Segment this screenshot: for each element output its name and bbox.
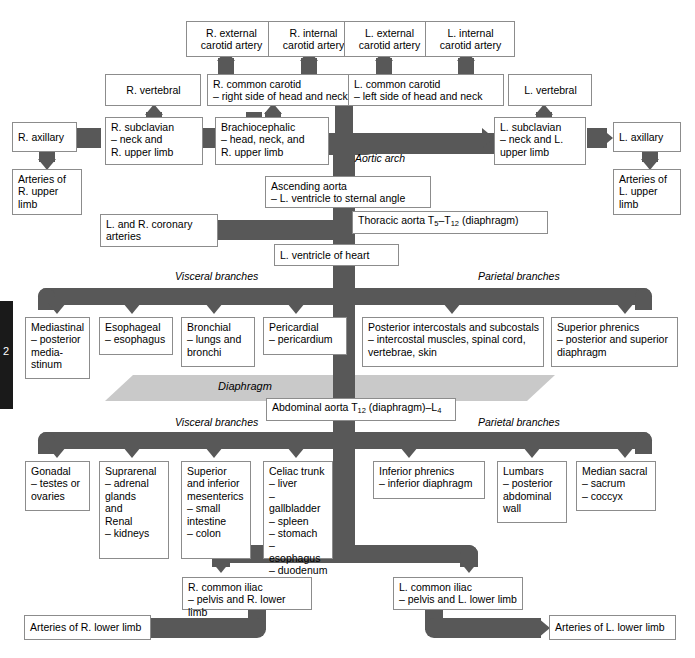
arrow-down-pericardial [287, 303, 305, 314]
vessel-rsub-to-raxillary [75, 128, 101, 148]
arrow-down-superior-phrenics [616, 303, 634, 314]
node-median-sacral[interactable]: Median sacral – sacrum – coccyx [576, 461, 656, 511]
node-l-ventricle-of-heart[interactable]: L. ventricle of heart [274, 244, 399, 266]
arrow-down-inferior-phrenics [400, 447, 418, 458]
arrow-right-to-l-subclavian [482, 128, 494, 148]
node-r-vertebral[interactable]: R. vertebral [105, 74, 201, 106]
diaphragm-label: Diaphragm [218, 380, 272, 392]
vessel-lci-right [425, 618, 541, 638]
node-arteries-l-upper-limb[interactable]: Arteries of L. upper limb [613, 169, 681, 215]
arrow-down-median-sacral [616, 447, 634, 458]
node-bronchial[interactable]: Bronchial – lungs and bronchi [181, 317, 255, 367]
label-thoracic-parietal-branches: Parietal branches [478, 270, 560, 282]
diagram-canvas: Diaphragm 2 [0, 0, 695, 658]
vessel-to-coronary [216, 220, 346, 240]
node-gonadal[interactable]: Gonadal – testes or ovaries [25, 461, 90, 511]
arrow-down-gonadal [48, 447, 66, 458]
node-suprarenal-renal[interactable]: Suprarenal – adrenal glands and Renal – … [99, 461, 169, 559]
arrow-down-bronchial [205, 303, 223, 314]
arrow-down-mediastinal [48, 303, 66, 314]
arrow-down-lumbars [523, 447, 541, 458]
node-r-common-iliac[interactable]: R. common iliac – pelvis and R. lower li… [182, 577, 312, 610]
arrow-down-r-common-iliac [212, 562, 230, 573]
vessel-thoracic-manifold-right [635, 288, 652, 310]
node-pericardial[interactable]: Pericardial – pericardium [263, 317, 347, 355]
vessel-iliac-bifurcation [212, 545, 478, 563]
label-abdominal-parietal-branches: Parietal branches [478, 416, 560, 428]
label-thoracic-visceral-branches: Visceral branches [175, 270, 258, 282]
page-tab-number: 2 [0, 345, 17, 357]
vessel-arch-to-l-subclavian [355, 133, 495, 154]
node-l-subclavian[interactable]: L. subclavian – neck and L. upper limb [494, 117, 586, 165]
arrow-down-esophageal [123, 303, 141, 314]
node-arteries-l-lower-limb[interactable]: Arteries of L. lower limb [549, 615, 676, 640]
node-l-internal-carotid[interactable]: L. internal carotid artery [425, 21, 515, 57]
arrow-down-post-intercostals [443, 303, 461, 314]
node-ascending-aorta[interactable]: Ascending aorta – L. ventricle to sterna… [265, 176, 431, 208]
arrow-down-suprarenal [123, 447, 141, 458]
node-esophageal[interactable]: Esophageal – esophagus [99, 317, 173, 355]
node-mesenterics[interactable]: Superior and inferior mesenterics – smal… [181, 461, 251, 559]
node-coronary-arteries[interactable]: L. and R. coronary arteries [100, 214, 218, 247]
node-l-common-carotid[interactable]: L. common carotid – left side of head an… [348, 74, 504, 106]
node-r-external-carotid[interactable]: R. external carotid artery [186, 21, 276, 57]
node-arteries-r-upper-limb[interactable]: Arteries of R. upper limb [12, 169, 82, 215]
node-r-common-carotid[interactable]: R. common carotid – right side of head a… [207, 74, 363, 106]
arrow-down-celiac [287, 447, 305, 458]
node-arteries-r-lower-limb[interactable]: Arteries of R. lower limb [24, 615, 151, 640]
abdominal-aorta-text: Abdominal aorta T12 (diaphragm)–L4 [272, 401, 441, 417]
node-thoracic-aorta[interactable]: Thoracic aorta T5–T12 (diaphragm) [352, 211, 548, 234]
node-mediastinal[interactable]: Mediastinal – posterior media- stinum [25, 317, 90, 379]
node-lumbars[interactable]: Lumbars – posterior abdominal wall [497, 461, 567, 523]
label-abdominal-visceral-branches: Visceral branches [175, 416, 258, 428]
thoracic-aorta-text: Thoracic aorta T5–T12 (diaphragm) [358, 214, 519, 230]
node-abdominal-aorta[interactable]: Abdominal aorta T12 (diaphragm)–L4 [266, 398, 456, 421]
node-l-vertebral[interactable]: L. vertebral [508, 74, 592, 106]
node-posterior-intercostals[interactable]: Posterior intercostals and subcostals – … [362, 317, 544, 367]
vessel-rci-left [150, 618, 266, 638]
node-r-subclavian[interactable]: R. subclavian – neck and R. upper limb [105, 117, 203, 165]
node-celiac-trunk[interactable]: Celiac trunk – liver – gallbladder – spl… [263, 461, 333, 559]
arrow-right-to-l-axillary [601, 128, 613, 148]
node-l-common-iliac[interactable]: L. common iliac – pelvis and L. lower li… [393, 577, 523, 610]
node-brachiocephalic[interactable]: Brachiocephalic – head, neck, and R. upp… [215, 117, 329, 165]
arrow-down-l-common-iliac [460, 562, 478, 573]
arrow-down-mesenterics [205, 447, 223, 458]
node-l-axillary[interactable]: L. axillary [613, 122, 681, 152]
label-aortic-arch: Aortic arch [355, 152, 405, 164]
node-l-external-carotid[interactable]: L. external carotid artery [344, 21, 434, 57]
vessel-abdominal-manifold-right [635, 432, 652, 454]
node-inferior-phrenics[interactable]: Inferior phrenics – inferior diaphragm [373, 461, 485, 499]
node-r-axillary[interactable]: R. axillary [12, 122, 77, 152]
vessel-abdominal-through [333, 432, 355, 552]
node-superior-phrenics[interactable]: Superior phrenics – posterior and superi… [551, 317, 678, 367]
